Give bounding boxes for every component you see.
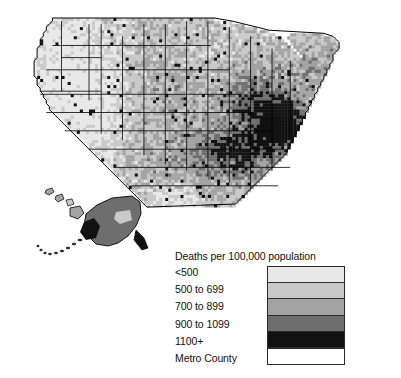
county-cell xyxy=(269,33,272,36)
county-cell xyxy=(177,125,180,128)
county-cell xyxy=(220,143,223,146)
county-cell xyxy=(168,39,171,42)
county-cell xyxy=(245,174,248,177)
county-cell xyxy=(126,52,129,55)
county-cell xyxy=(266,42,269,45)
county-cell xyxy=(113,106,116,109)
county-cell xyxy=(223,119,226,122)
county-cell xyxy=(242,177,245,180)
county-cell xyxy=(101,21,104,24)
county-cell xyxy=(110,70,113,73)
county-cell xyxy=(299,94,302,97)
county-cell xyxy=(77,24,80,27)
county-cell xyxy=(89,140,92,143)
county-cell xyxy=(257,116,260,119)
county-cell xyxy=(211,158,214,161)
county-cell xyxy=(196,39,199,42)
county-cell xyxy=(245,152,248,155)
county-cell xyxy=(312,42,315,45)
county-cell xyxy=(177,49,180,52)
county-cell xyxy=(181,177,184,180)
county-cell xyxy=(238,167,241,170)
county-cell xyxy=(284,82,287,85)
county-cell xyxy=(266,55,269,58)
county-cell xyxy=(303,61,306,64)
county-cell xyxy=(156,122,159,125)
county-cell xyxy=(238,27,241,30)
county-cell xyxy=(181,36,184,39)
county-cell xyxy=(293,79,296,82)
county-cell xyxy=(245,30,248,33)
county-cell xyxy=(107,134,110,137)
county-cell xyxy=(235,134,238,137)
county-cell xyxy=(229,155,232,158)
legend-title: Deaths per 100,000 population xyxy=(175,250,390,263)
county-cell xyxy=(135,143,138,146)
county-cell xyxy=(254,91,257,94)
county-cell xyxy=(95,82,98,85)
legend-labels: <500500 to 699700 to 899900 to 10991100+… xyxy=(175,264,267,367)
county-cell xyxy=(153,152,156,155)
county-cell xyxy=(150,192,153,195)
county-cell xyxy=(49,97,52,100)
county-cell xyxy=(220,131,223,134)
county-cell xyxy=(110,158,113,161)
county-cell xyxy=(202,70,205,73)
county-cell xyxy=(272,61,275,64)
county-cell xyxy=(235,122,238,125)
county-cell xyxy=(71,33,74,36)
county-cell xyxy=(159,137,162,140)
county-cell xyxy=(156,198,159,201)
county-cell xyxy=(211,155,214,158)
county-cell xyxy=(104,149,107,152)
county-cell xyxy=(278,94,281,97)
county-cell xyxy=(132,58,135,61)
county-cell xyxy=(147,55,150,58)
county-cell xyxy=(165,125,168,128)
county-cell xyxy=(113,103,116,106)
county-cell xyxy=(193,85,196,88)
county-cell xyxy=(159,106,162,109)
county-cell xyxy=(190,49,193,52)
county-cell xyxy=(171,94,174,97)
county-cell xyxy=(211,24,214,27)
county-cell xyxy=(107,94,110,97)
county-cell xyxy=(318,52,321,55)
county-cell xyxy=(235,33,238,36)
county-cell xyxy=(257,45,260,48)
county-cell xyxy=(242,73,245,76)
county-cell xyxy=(220,27,223,30)
county-cell xyxy=(150,195,153,198)
county-cell xyxy=(165,70,168,73)
county-cell xyxy=(181,113,184,116)
county-cell xyxy=(220,61,223,64)
county-cell xyxy=(95,27,98,30)
county-cell xyxy=(101,152,104,155)
county-cell xyxy=(181,116,184,119)
county-cell xyxy=(245,39,248,42)
county-cell xyxy=(165,27,168,30)
county-cell xyxy=(214,94,217,97)
county-cell xyxy=(217,24,220,27)
county-cell xyxy=(101,24,104,27)
county-cell xyxy=(242,58,245,61)
county-cell xyxy=(193,49,196,52)
county-cell xyxy=(165,18,168,21)
county-cell xyxy=(55,64,58,67)
county-cell xyxy=(168,21,171,24)
county-cell xyxy=(116,73,119,76)
county-cell xyxy=(254,88,257,91)
county-cell xyxy=(303,36,306,39)
county-cell xyxy=(92,21,95,24)
county-cell xyxy=(193,79,196,82)
county-cell xyxy=(113,100,116,103)
county-cell xyxy=(321,58,324,61)
county-cell xyxy=(278,143,281,146)
county-cell xyxy=(68,64,71,67)
county-cell xyxy=(193,171,196,174)
county-cell xyxy=(184,171,187,174)
county-cell xyxy=(245,122,248,125)
county-cell xyxy=(138,27,141,30)
county-cell xyxy=(135,122,138,125)
county-cell xyxy=(86,106,89,109)
